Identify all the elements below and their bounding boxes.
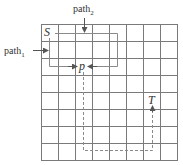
path1 xyxy=(33,38,77,67)
path2-route xyxy=(55,34,118,67)
grid xyxy=(42,25,178,161)
label-t: T xyxy=(148,93,156,107)
path2 xyxy=(55,18,118,67)
path1-route xyxy=(50,38,71,67)
grid-path-diagram: S p T path1 path2 xyxy=(0,0,183,165)
label-path2: path2 xyxy=(73,3,94,17)
p-to-t-path xyxy=(84,72,153,151)
label-path1: path1 xyxy=(4,45,25,59)
label-s: S xyxy=(44,25,50,39)
label-p: p xyxy=(78,59,85,73)
